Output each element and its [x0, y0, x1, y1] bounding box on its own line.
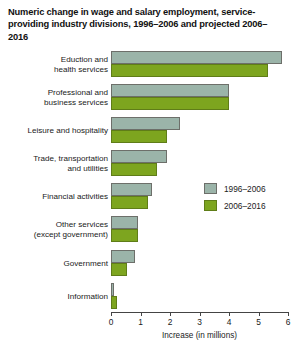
category-label: Information — [0, 292, 108, 302]
bar-1996-2006 — [111, 216, 138, 229]
x-tick — [141, 312, 142, 316]
x-tick — [111, 312, 112, 316]
category-label: Financial activities — [0, 192, 108, 202]
legend-label: 1996–2006 — [224, 184, 266, 194]
x-tick-label: 1 — [131, 317, 151, 327]
bar-group: Government — [0, 249, 297, 279]
bar-1996-2006 — [111, 117, 180, 130]
chart-title: Numeric change in wage and salary employ… — [8, 6, 286, 43]
bar-group: Other services (except government) — [0, 215, 297, 245]
bar-2006-2016 — [111, 163, 157, 176]
x-tick-label: 3 — [190, 317, 210, 327]
x-axis: 0 1 2 3 4 5 6 — [111, 312, 288, 313]
x-tick-label: 4 — [219, 317, 239, 327]
bar-2006-2016 — [111, 296, 117, 309]
x-tick — [229, 312, 230, 316]
bar-group: Information — [0, 282, 297, 312]
bar-2006-2016 — [111, 196, 148, 209]
x-tick-label: 6 — [278, 317, 297, 327]
category-label: Leisure and hospitality — [0, 126, 108, 136]
bar-2006-2016 — [111, 263, 127, 276]
bar-2006-2016 — [111, 97, 229, 110]
bar-group: Eduction and health services — [0, 50, 297, 80]
legend: 1996–2006 2006–2016 — [204, 181, 294, 215]
legend-label: 2006–2016 — [224, 201, 266, 211]
x-tick-label: 0 — [101, 317, 121, 327]
bar-2006-2016 — [111, 64, 268, 77]
bar-1996-2006 — [111, 183, 152, 196]
bar-group: Trade, transportation and utilities — [0, 149, 297, 179]
x-tick-label: 5 — [249, 317, 269, 327]
x-axis-title: Increase (in millions) — [111, 331, 288, 340]
bar-1996-2006 — [111, 283, 114, 296]
category-label: Eduction and health services — [0, 55, 108, 74]
bar-1996-2006 — [111, 150, 167, 163]
bar-1996-2006 — [111, 84, 229, 97]
bar-1996-2006 — [111, 250, 135, 263]
legend-swatch-icon — [204, 183, 217, 194]
bar-2006-2016 — [111, 229, 138, 242]
x-tick — [259, 312, 260, 316]
plot-area: Eduction and health services Professiona… — [0, 50, 297, 312]
category-label: Professional and business services — [0, 88, 108, 107]
legend-swatch-icon — [204, 200, 217, 211]
category-label: Other services (except government) — [0, 220, 108, 239]
bar-2006-2016 — [111, 130, 167, 143]
category-label: Government — [0, 259, 108, 269]
bar-group: Leisure and hospitality — [0, 116, 297, 146]
category-label: Trade, transportation and utilities — [0, 154, 108, 173]
legend-item-2006-2016: 2006–2016 — [204, 198, 294, 213]
chart-figure: Numeric change in wage and salary employ… — [0, 0, 297, 354]
bar-group: Professional and business services — [0, 83, 297, 113]
x-tick — [200, 312, 201, 316]
x-tick — [288, 312, 289, 316]
x-tick — [170, 312, 171, 316]
x-tick-label: 2 — [160, 317, 180, 327]
legend-item-1996-2006: 1996–2006 — [204, 181, 294, 196]
bar-1996-2006 — [111, 51, 282, 64]
